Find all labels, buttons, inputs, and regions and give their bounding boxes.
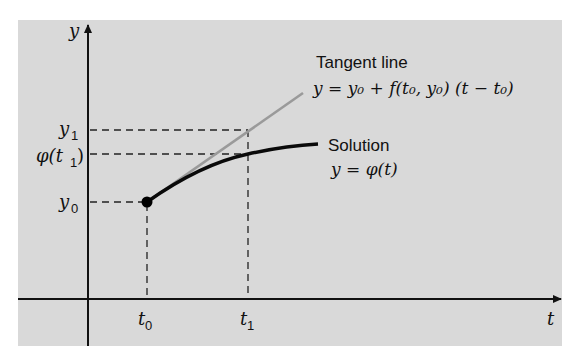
svg-text:y: y (58, 191, 70, 212)
svg-text:y: y (58, 118, 70, 139)
euler-diagram: y t y 0 y 1 φ(t 1 ) t 0 t 1 Tangent line… (0, 0, 579, 355)
y-tick-phi-t1: φ(t 1 ) (36, 145, 84, 170)
svg-text:0: 0 (145, 318, 152, 333)
tangent-line-title: Tangent line (316, 53, 408, 72)
solution-title: Solution (328, 136, 389, 155)
svg-text:0: 0 (71, 201, 78, 216)
svg-text:1: 1 (247, 318, 254, 333)
x-tick-t0: t 0 (138, 308, 152, 333)
y-tick-y1: y 1 (58, 118, 78, 143)
svg-text:1: 1 (71, 128, 78, 143)
x-tick-t1: t 1 (240, 308, 254, 333)
svg-text:φ(t: φ(t (36, 145, 64, 166)
solution-curve (147, 144, 318, 202)
tangent-line-equation: y = y₀ + f(t₀, y₀) (t − t₀) (312, 78, 514, 98)
y-axis-label: y (68, 20, 80, 41)
svg-text:): ) (77, 145, 84, 166)
solution-equation: y = φ(t) (330, 159, 398, 179)
dashed-guides (90, 130, 248, 298)
initial-point (142, 197, 153, 208)
y-tick-y0: y 0 (58, 191, 78, 216)
x-axis-label: t (547, 308, 555, 329)
